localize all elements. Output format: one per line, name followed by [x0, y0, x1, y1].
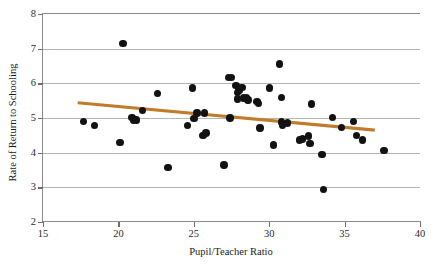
data-point: [184, 122, 191, 129]
x-tick-35: [345, 222, 346, 227]
data-point: [270, 141, 277, 148]
data-point: [255, 100, 262, 107]
data-point: [202, 129, 209, 136]
y-tick-3: [38, 187, 43, 188]
data-point: [154, 90, 161, 97]
data-point: [338, 124, 345, 131]
data-point: [305, 132, 312, 139]
gridline-y-7: [43, 49, 420, 50]
x-tick-20: [118, 222, 119, 227]
data-point: [220, 161, 227, 168]
y-tick-label-5: 5: [31, 113, 36, 124]
data-point: [91, 122, 98, 129]
x-axis-line: [42, 221, 421, 222]
data-point: [380, 147, 387, 154]
y-tick-label-7: 7: [31, 43, 36, 54]
data-point: [228, 74, 235, 81]
y-tick-7: [38, 49, 43, 50]
data-point: [133, 116, 140, 123]
data-point: [201, 109, 208, 116]
y-tick-4: [38, 153, 43, 154]
data-point: [226, 114, 233, 121]
x-tick-label-40: 40: [415, 229, 426, 240]
y-tick-label-3: 3: [31, 182, 36, 193]
data-point: [193, 109, 200, 116]
data-point: [306, 140, 313, 147]
data-point: [278, 94, 285, 101]
data-point: [318, 151, 325, 158]
data-point: [276, 60, 283, 67]
y-tick-8: [38, 14, 43, 15]
y-tick-label-8: 8: [31, 9, 36, 20]
data-point: [256, 124, 263, 131]
x-tick-label-35: 35: [339, 229, 350, 240]
plot-inner: [43, 14, 420, 222]
data-point: [308, 100, 315, 107]
x-tick-label-20: 20: [113, 229, 124, 240]
data-point: [189, 84, 196, 91]
data-point: [329, 114, 336, 121]
x-tick-40: [420, 222, 421, 227]
scatter-plot-figure: 2345678152025303540 Pupil/Teacher Ratio …: [0, 0, 431, 270]
x-tick-label-30: 30: [264, 229, 275, 240]
y-tick-6: [38, 83, 43, 84]
x-tick-15: [43, 222, 44, 227]
data-point: [119, 40, 126, 47]
data-point: [116, 139, 123, 146]
plot-area: 2345678152025303540: [42, 13, 420, 222]
x-axis-label: Pupil/Teacher Ratio: [42, 246, 420, 257]
y-axis-label: Rate of Return to Schooling: [7, 48, 18, 198]
data-point: [350, 118, 357, 125]
data-point: [139, 107, 146, 114]
y-tick-label-6: 6: [31, 78, 36, 89]
x-tick-label-15: 15: [38, 229, 49, 240]
data-point: [238, 84, 245, 91]
y-tick-label-2: 2: [31, 217, 36, 228]
data-point: [80, 118, 87, 125]
gridline-y-3: [43, 187, 420, 188]
data-point: [266, 84, 273, 91]
data-point: [164, 164, 171, 171]
x-tick-30: [269, 222, 270, 227]
data-point: [284, 119, 291, 126]
x-tick-25: [194, 222, 195, 227]
y-tick-5: [38, 118, 43, 119]
data-point: [244, 96, 251, 103]
data-point: [320, 186, 327, 193]
gridline-y-4: [43, 153, 420, 154]
y-tick-label-4: 4: [31, 147, 36, 158]
data-point: [359, 136, 366, 143]
x-tick-label-25: 25: [189, 229, 200, 240]
